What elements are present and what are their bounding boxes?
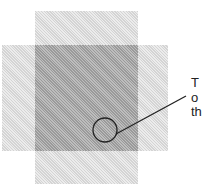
callout-circle [93, 118, 117, 142]
callout-leader-line [116, 96, 186, 134]
callout-text-line-3: th [191, 105, 202, 119]
callout-text-line-1: T [191, 76, 199, 90]
callout-graphics [0, 0, 205, 189]
callout-text-line-2: o [191, 91, 198, 105]
